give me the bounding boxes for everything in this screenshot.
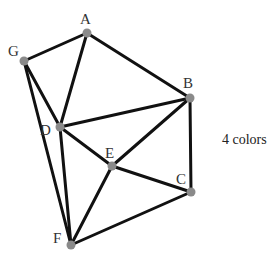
edge-G-F	[24, 61, 71, 245]
edge-F-C	[71, 192, 191, 245]
node-label-B: B	[183, 75, 193, 91]
edge-A-B	[87, 33, 190, 98]
node-label-C: C	[176, 171, 186, 187]
edges	[24, 33, 191, 245]
node-labels: AGBDECF	[8, 11, 193, 246]
node-label-A: A	[80, 11, 91, 27]
edge-D-B	[60, 98, 190, 127]
node-A	[83, 29, 92, 38]
node-E	[108, 162, 117, 171]
node-B	[186, 94, 195, 103]
node-label-D: D	[40, 122, 51, 138]
edge-B-C	[190, 98, 191, 192]
edge-A-G	[24, 33, 87, 61]
node-label-F: F	[53, 230, 61, 246]
node-label-G: G	[8, 43, 19, 59]
node-F	[67, 241, 76, 250]
node-D	[56, 123, 65, 132]
node-G	[20, 57, 29, 66]
node-C	[187, 188, 196, 197]
node-label-E: E	[105, 145, 114, 161]
edge-A-D	[60, 33, 87, 127]
color-count-caption: 4 colors	[222, 132, 267, 148]
nodes	[20, 29, 196, 250]
graph-diagram: AGBDECF	[0, 0, 271, 259]
edge-G-D	[24, 61, 60, 127]
edge-E-F	[71, 166, 112, 245]
